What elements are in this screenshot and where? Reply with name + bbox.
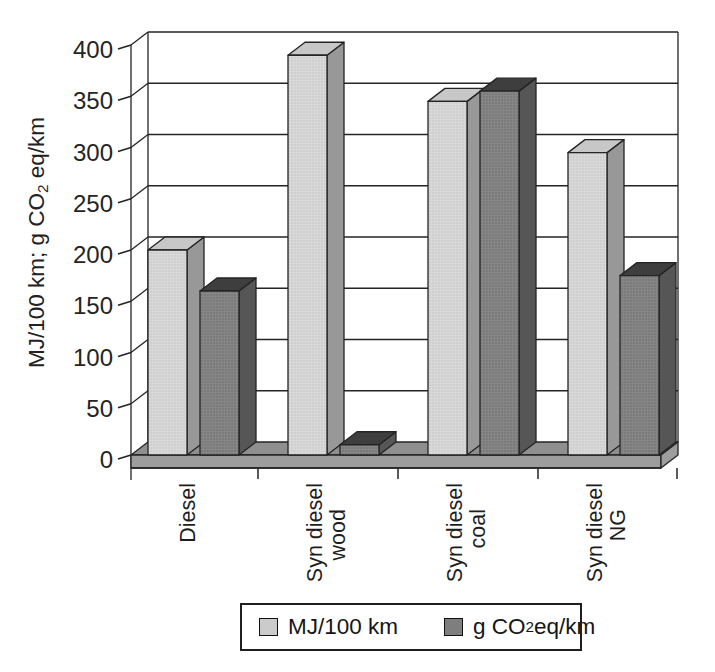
gridline-elbow-400 — [131, 32, 148, 45]
value-tick-label-200: 200 — [73, 241, 113, 268]
bar-s0-c1 — [288, 55, 327, 455]
value-tick-0 — [118, 455, 131, 459]
value-tick-label-150: 150 — [73, 292, 113, 319]
legend-label-co2: g CO — [473, 614, 526, 640]
value-tick-300 — [118, 148, 131, 152]
legend-box: MJ/100 km g CO2 eq/km — [240, 603, 582, 651]
value-tick-label-350: 350 — [73, 87, 113, 114]
value-tick-label-300: 300 — [73, 139, 113, 166]
chart-figure: MJ/100 km; g CO2 eq/km 05010015020025030… — [0, 0, 715, 672]
bar-s1-c1 — [340, 445, 379, 455]
gridline-elbow-150 — [131, 288, 148, 301]
legend-swatch-co2-icon — [444, 618, 463, 636]
value-tick-label-100: 100 — [73, 344, 113, 371]
value-tick-50 — [118, 404, 131, 408]
bar-side-s1-c0 — [239, 278, 256, 455]
gridline-elbow-350 — [131, 83, 148, 96]
legend-label-mj: MJ/100 km — [288, 614, 398, 640]
gridline-elbow-50 — [131, 391, 148, 404]
category-label-0-line-0: Diesel — [177, 483, 200, 658]
bar-s0-c3 — [568, 153, 607, 455]
value-tick-200 — [118, 250, 131, 254]
legend-item-gco2-per-km: g CO2 eq/km — [444, 614, 595, 640]
legend-item-mj-per-100km: MJ/100 km — [259, 614, 398, 640]
legend-swatch-mj-icon — [259, 618, 278, 636]
bar-side-s1-c3 — [659, 263, 676, 455]
value-tick-label-400: 400 — [73, 36, 113, 63]
value-tick-label-50: 50 — [86, 395, 113, 422]
value-tick-400 — [118, 45, 131, 49]
value-tick-350 — [118, 96, 131, 100]
gridline-elbow-250 — [131, 186, 148, 199]
category-label-3-line-1: NG — [607, 483, 630, 658]
bar-s0-c0 — [148, 250, 187, 455]
gridline-elbow-200 — [131, 237, 148, 250]
floor-front — [131, 455, 661, 468]
bar-s0-c2 — [428, 101, 467, 455]
bar-side-s1-c2 — [519, 78, 536, 455]
value-tick-250 — [118, 199, 131, 203]
value-tick-150 — [118, 301, 131, 305]
value-tick-label-0: 0 — [100, 446, 113, 473]
value-tick-100 — [118, 353, 131, 357]
bar-s1-c0 — [200, 291, 239, 455]
gridline-elbow-300 — [131, 135, 148, 148]
bar-side-s0-c1 — [327, 42, 344, 455]
gridline-elbow-100 — [131, 340, 148, 353]
bar-s1-c2 — [480, 91, 519, 455]
value-tick-label-250: 250 — [73, 190, 113, 217]
bar-s1-c3 — [620, 276, 659, 455]
category-label-0: Diesel — [177, 483, 200, 658]
